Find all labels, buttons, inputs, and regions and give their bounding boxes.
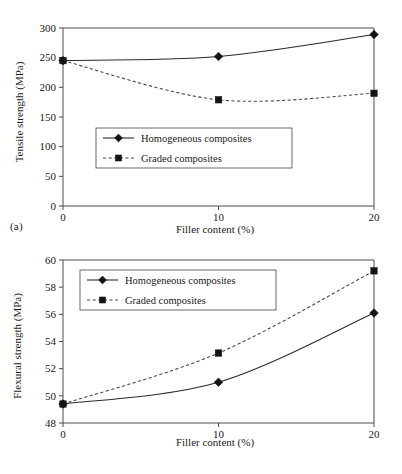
chart-panel-a: 050100150200250300 01020 Homogeneous com… [0,0,402,238]
flexural-strength-chart: 48505254565860 01020 Homogeneous composi… [0,238,402,474]
legend-entry-label: Homogeneous composites [141,133,252,144]
data-point-marker-diamond [214,378,223,387]
legend-entry-label: Graded composites [141,153,222,164]
data-point-marker-square [371,268,377,274]
y-tick-label: 150 [40,111,57,123]
data-point-marker-diamond [370,309,379,318]
y-tick-labels-b: 48505254565860 [45,254,57,429]
x-axis-title-b: Filler content (%) [176,436,255,449]
figure-container: 050100150200250300 01020 Homogeneous com… [0,0,402,474]
legend-entry-label: Graded composites [125,295,206,306]
x-axis-title-a: Filler content (%) [176,223,255,236]
legend-a: Homogeneous compositesGraded composites [96,128,292,168]
tensile-strength-chart: 050100150200250300 01020 Homogeneous com… [0,0,402,238]
y-tick-label: 54 [45,335,57,347]
data-point-marker-square [60,401,66,407]
y-tick-label: 52 [45,362,56,374]
y-tick-labels-a: 050100150200250300 [40,22,57,212]
data-point-marker-diamond [214,52,223,61]
legend-marker-square [100,297,106,303]
x-tick-label: 0 [60,211,66,223]
y-tick-label: 250 [40,51,57,63]
y-axis-title-a: Tensile strength (MPa) [13,61,26,162]
data-point-marker-diamond [370,30,379,39]
x-tick-label: 0 [60,428,66,440]
series-line [63,61,374,102]
data-series-a [59,30,379,103]
data-point-marker-square [215,97,221,103]
y-tick-label: 50 [45,170,57,182]
x-tick-label: 20 [369,211,381,223]
legend-b: Homogeneous compositesGraded composites [80,270,276,310]
y-tick-label: 50 [45,390,57,402]
data-point-marker-square [371,90,377,96]
y-axis-title-b: Flexural strength (MPa) [11,293,24,399]
y-tick-label: 100 [40,140,57,152]
y-tick-label: 56 [45,308,57,320]
data-point-marker-square [60,57,66,63]
legend-marker-square [116,155,122,161]
y-tick-label: 200 [40,81,57,93]
y-tick-label: 58 [45,281,57,293]
y-tick-label: 300 [40,22,57,34]
x-tick-label: 20 [369,428,381,440]
x-tick-label: 10 [213,211,225,223]
y-tick-label: 48 [45,417,57,429]
x-tick-labels-a: 01020 [60,211,380,223]
panel-label-a: (a) [10,220,23,232]
chart-panel-b: 48505254565860 01020 Homogeneous composi… [0,238,402,474]
legend-entry-label: Homogeneous composites [125,275,236,286]
data-point-marker-square [215,350,221,356]
y-tick-label: 0 [51,200,57,212]
y-tick-label: 60 [45,254,57,266]
series-line [63,313,374,404]
